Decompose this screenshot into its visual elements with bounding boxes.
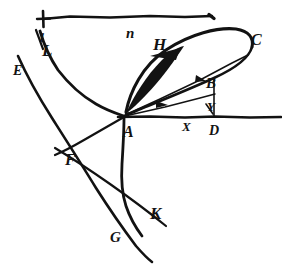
label-K: K (150, 205, 161, 222)
label-G: G (110, 230, 121, 245)
label-A: A (123, 124, 134, 140)
label-X: X (182, 120, 191, 133)
label-C: C (251, 32, 262, 48)
label-Y: Y (207, 100, 215, 113)
label-n: n (126, 26, 134, 41)
label-F: F (65, 152, 76, 168)
label-D: D (209, 124, 219, 138)
top-measure-line (43, 16, 212, 19)
loop-curve-upper (126, 29, 252, 112)
curve-E-long (18, 56, 152, 262)
figure-canvas: n l L E H C B Y D X A F K G (0, 0, 282, 269)
label-L: L (42, 42, 52, 59)
curve-L-to-A (40, 31, 124, 116)
label-E: E (13, 64, 22, 78)
top-right-tick (209, 15, 214, 19)
line-A-to-F (55, 117, 124, 155)
label-B: B (206, 76, 216, 91)
label-H: H (153, 36, 166, 53)
horizontal-baseline (118, 117, 281, 118)
top-left-tick-horizontal (37, 19, 50, 20)
